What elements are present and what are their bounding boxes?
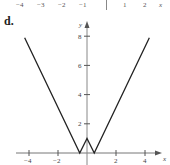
svg-text:4: 4 — [143, 157, 147, 165]
x-axis-label: x — [162, 155, 167, 163]
x-ticks: −4−224 — [24, 150, 147, 165]
chart-plot: −4−224 2468 x y — [0, 0, 170, 165]
svg-text:2: 2 — [78, 120, 82, 128]
svg-text:−2: −2 — [53, 157, 61, 165]
x-axis — [16, 151, 162, 156]
svg-text:2: 2 — [114, 157, 118, 165]
svg-text:8: 8 — [78, 33, 82, 41]
y-ticks: 2468 — [78, 33, 90, 129]
svg-text:6: 6 — [78, 62, 82, 70]
svg-text:4: 4 — [78, 91, 82, 99]
y-axis-label: y — [78, 21, 83, 29]
y-axis — [85, 21, 90, 165]
svg-text:−4: −4 — [24, 157, 32, 165]
